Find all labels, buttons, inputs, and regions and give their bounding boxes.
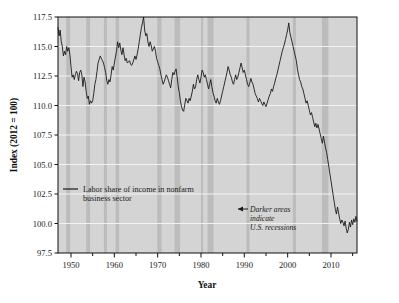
- x-axis-tick-label: 2000: [279, 260, 296, 270]
- y-axis-tick-label: 97.5: [37, 248, 52, 258]
- y-axis-tick-label: 115.0: [33, 42, 52, 52]
- y-axis-tick-label: 107.5: [33, 130, 52, 140]
- x-axis-tick-label: 1980: [192, 260, 209, 270]
- x-axis-tick-label: 2010: [322, 260, 339, 270]
- x-axis-tick-label: 1950: [62, 260, 79, 270]
- y-axis-tick-label: 117.5: [33, 12, 52, 22]
- x-axis-tick-label: 1970: [149, 260, 166, 270]
- chart-figure: 97.5100.0102.5105.0107.5110.0112.5115.01…: [0, 0, 399, 303]
- annotation-line-3: U.S. recessions: [250, 223, 296, 232]
- legend-label-line2: business sector: [83, 194, 132, 203]
- y-axis-title: Index (2012 = 100): [9, 98, 20, 172]
- labor-share-line-chart: 97.5100.0102.5105.0107.5110.0112.5115.01…: [0, 0, 399, 303]
- y-axis-tick-label: 100.0: [33, 219, 52, 229]
- annotation-line-2: indicate: [250, 214, 275, 223]
- x-axis-title: Year: [198, 280, 217, 290]
- x-axis-tick-label: 1990: [236, 260, 253, 270]
- annotation-line-1: Darker areas: [249, 205, 290, 214]
- y-axis-tick-label: 105.0: [33, 160, 52, 170]
- y-axis-tick-label: 110.0: [33, 101, 52, 111]
- legend-label-line1: Labor share of income in nonfarm: [83, 185, 195, 194]
- y-axis-tick-label: 112.5: [33, 71, 52, 81]
- x-axis-tick-label: 1960: [106, 260, 123, 270]
- y-axis-tick-label: 102.5: [33, 189, 52, 199]
